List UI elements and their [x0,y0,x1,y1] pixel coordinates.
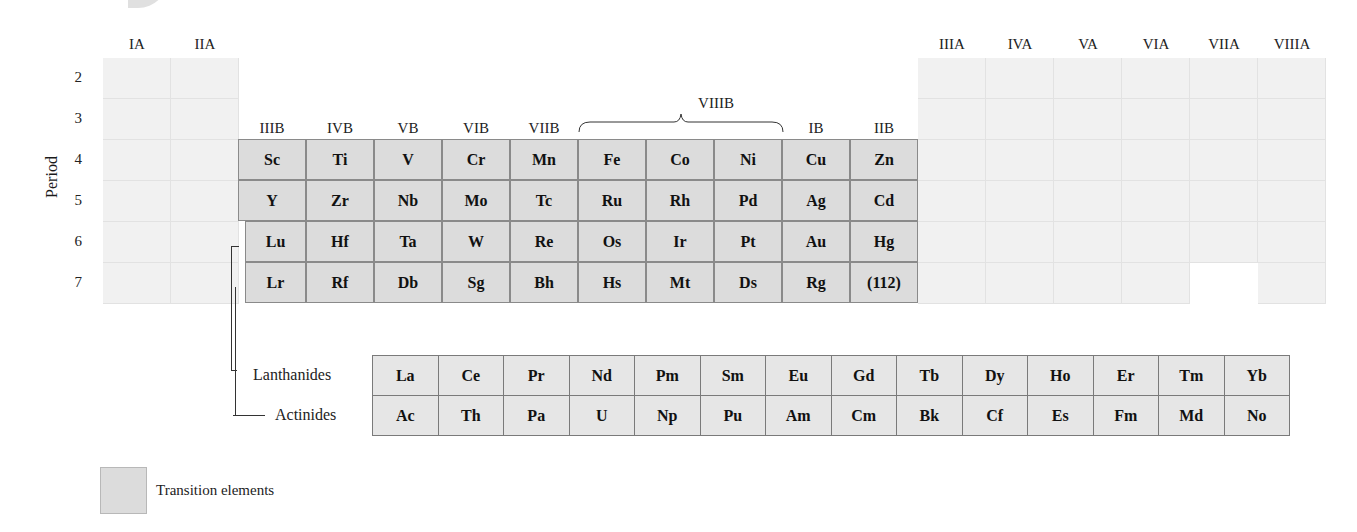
element-cell: Tb [896,355,963,396]
group-label: VIIA [1190,36,1258,53]
empty-cell [171,181,239,222]
empty-cell [918,263,986,304]
empty-cell [986,181,1054,222]
element-cell: Sc [238,139,306,180]
actinides-label: Actinides [275,406,336,424]
empty-cell [1054,99,1122,140]
empty-cell [986,263,1054,304]
element-cell: Eu [765,355,832,396]
element-cell: U [569,395,636,436]
element-cell: Rf [306,262,374,303]
element-cell: Hg [850,221,918,262]
period-number: 6 [62,233,82,250]
connector-lanthanides-bottom [231,370,237,371]
period-number: 5 [62,192,82,209]
empty-cell [1190,222,1258,263]
element-cell: Np [634,395,701,436]
element-cell: Hf [306,221,374,262]
element-cell: Pa [503,395,570,436]
period-number: 2 [62,69,82,86]
element-cell: Cm [831,395,898,436]
element-cell: Cf [962,395,1029,436]
empty-cell [103,181,171,222]
element-cell: (112) [850,262,918,303]
empty-cell [1122,181,1190,222]
empty-cell [1258,99,1326,140]
element-cell: Ti [306,139,374,180]
group-label: IIB [850,120,918,137]
empty-cell [1258,58,1326,99]
element-cell: Er [1093,355,1160,396]
element-cell: Sg [442,262,510,303]
empty-cell [918,222,986,263]
empty-cell [1122,99,1190,140]
empty-cell [986,58,1054,99]
legend-swatch [100,467,147,514]
group-label-iia: IIA [171,36,239,53]
connector-actinides [235,287,236,415]
empty-cell [1258,263,1326,304]
empty-cell [1122,58,1190,99]
element-cell: Ce [438,355,505,396]
element-cell: Th [438,395,505,436]
element-cell: Ag [782,180,850,221]
empty-cell [1054,263,1122,304]
element-cell: Db [374,262,442,303]
element-cell: Dy [962,355,1029,396]
element-cell: Zr [306,180,374,221]
element-cell: No [1224,395,1291,436]
element-cell: Ru [578,180,646,221]
viiib-brace [578,110,784,134]
element-cell: Ac [372,395,439,436]
element-cell: Os [578,221,646,262]
element-cell: Sm [700,355,767,396]
period-axis-label: Period [43,147,61,207]
element-cell: Fe [578,139,646,180]
empty-cell [918,140,986,181]
element-cell: Cd [850,180,918,221]
empty-cell [103,58,171,99]
element-cell: Mo [442,180,510,221]
period-number: 3 [62,110,82,127]
element-cell: Co [646,139,714,180]
element-cell: Mt [646,262,714,303]
element-cell: Re [510,221,578,262]
empty-cell [171,263,239,304]
group-label: VIIIA [1258,36,1326,53]
group-label: IB [782,120,850,137]
empty-cell [986,222,1054,263]
element-cell: W [442,221,510,262]
empty-cell [1122,140,1190,181]
element-cell: Bh [510,262,578,303]
element-cell: Tc [510,180,578,221]
element-cell: Lr [245,262,306,303]
element-cell: Ir [646,221,714,262]
element-cell: Mn [510,139,578,180]
empty-cell [103,140,171,181]
empty-cell [1258,181,1326,222]
element-cell: V [374,139,442,180]
empty-cell [1122,222,1190,263]
element-cell: Ho [1027,355,1094,396]
element-cell: Ds [714,262,782,303]
empty-cell [1190,140,1258,181]
period-number: 4 [62,151,82,168]
element-cell: Rg [782,262,850,303]
empty-cell [918,99,986,140]
empty-cell [171,140,239,181]
element-cell: Ta [374,221,442,262]
element-cell: Fm [1093,395,1160,436]
element-cell: Lu [245,221,306,262]
legend-label: Transition elements [156,482,274,499]
connector-lanthanides [231,247,232,370]
group-label: VA [1054,36,1122,53]
empty-cell [918,181,986,222]
group-label: IVB [306,120,374,137]
element-cell: Gd [831,355,898,396]
element-cell: Pt [714,221,782,262]
element-cell: Cr [442,139,510,180]
empty-cell [1258,222,1326,263]
element-cell: Hs [578,262,646,303]
empty-cell [1122,263,1190,304]
group-label: VIB [442,120,510,137]
